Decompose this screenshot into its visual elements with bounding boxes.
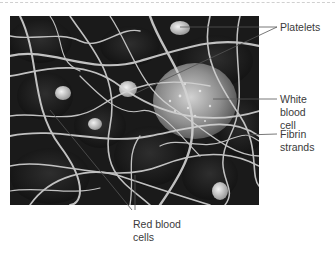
label-white-blood-cell: White blood cell: [280, 93, 335, 132]
clot-micrograph-image: [10, 16, 259, 205]
top-dashed-border: [0, 2, 335, 3]
label-fibrin-strands: Fibrin strands: [280, 128, 314, 154]
label-platelets: Platelets: [280, 21, 320, 34]
label-red-blood-cells: Red blood cells: [133, 218, 181, 244]
